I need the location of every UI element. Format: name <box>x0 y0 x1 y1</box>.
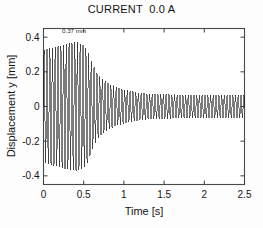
y-axis-title: Displacement y [mm] <box>5 55 17 158</box>
y-tick-label: -0.2 <box>22 136 40 147</box>
x-tick-label: 1.5 <box>157 189 171 200</box>
x-tick-label: 0 <box>41 189 47 200</box>
x-tick-label: 1 <box>121 189 127 200</box>
y-axis-tick-labels: 0.40.20-0.2-0.4 <box>22 32 40 182</box>
peak-annotation-group: 0.37 mm <box>62 27 86 34</box>
x-tick-label: 0.5 <box>77 189 91 200</box>
y-tick-label: 0 <box>34 101 40 112</box>
x-axis-title: Time [s] <box>125 205 164 217</box>
figure-panel: CURRENT 0.0 A 00.511.522.5 0.40.20-0.2-0… <box>0 0 263 228</box>
y-tick-label: 0.2 <box>26 66 40 77</box>
x-axis-tick-labels: 00.511.522.5 <box>41 189 252 200</box>
x-tick-label: 2.5 <box>238 189 252 200</box>
x-tick-label: 2 <box>202 189 208 200</box>
y-tick-label: -0.4 <box>22 170 40 181</box>
displacement-time-plot: 00.511.522.5 0.40.20-0.2-0.4 Time [s] Di… <box>0 0 263 228</box>
y-tick-label: 0.4 <box>26 32 40 43</box>
peak-amplitude-annotation: 0.37 mm <box>62 27 86 34</box>
